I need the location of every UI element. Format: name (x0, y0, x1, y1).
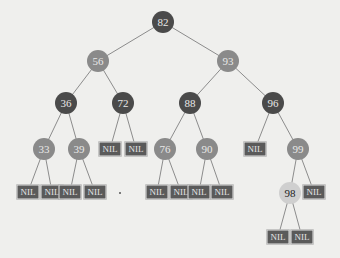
tree-edges (0, 0, 340, 258)
tree-node-96: 96 (262, 92, 284, 114)
tree-node-90: 90 (196, 138, 218, 160)
nil-leaf: NIL (99, 142, 122, 157)
nil-leaf: NIL (188, 185, 211, 200)
nil-leaf: NIL (267, 230, 290, 245)
nil-leaf: NIL (17, 185, 40, 200)
tree-node-36: 36 (55, 92, 77, 114)
nil-leaf: NIL (303, 185, 326, 200)
tree-node-99: 99 (287, 138, 309, 160)
stray-dot (119, 192, 121, 194)
tree-node-82: 82 (152, 11, 174, 33)
tree-node-72: 72 (112, 92, 134, 114)
tree-node-76: 76 (154, 138, 176, 160)
nil-leaf: NIL (211, 185, 234, 200)
tree-node-33: 33 (33, 138, 55, 160)
tree-node-56: 56 (87, 50, 109, 72)
tree-node-88: 88 (179, 92, 201, 114)
nil-leaf: NIL (125, 142, 148, 157)
tree-node-93: 93 (217, 50, 239, 72)
tree-node-39: 39 (68, 138, 90, 160)
tree-node-98: 98 (279, 182, 301, 204)
nil-leaf: NIL (244, 142, 267, 157)
nil-leaf: NIL (146, 185, 169, 200)
nil-leaf: NIL (291, 230, 314, 245)
nil-leaf: NIL (59, 185, 82, 200)
nil-leaf: NIL (84, 185, 107, 200)
